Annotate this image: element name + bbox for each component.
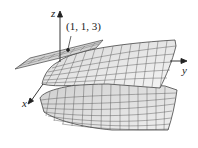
point-label: (1, 1, 3) <box>66 20 101 33</box>
z-axis-arrow-icon <box>58 11 63 17</box>
y-axis-arrow-icon <box>181 59 187 64</box>
tangent-point-marker <box>67 49 70 52</box>
lower-surface-sheet <box>40 82 177 130</box>
upper-surface-sheet <box>42 40 176 88</box>
figure: z y x (1, 1, 3) <box>0 0 198 148</box>
y-axis-label: y <box>181 64 187 76</box>
surface-diagram: z y x (1, 1, 3) <box>0 0 198 148</box>
point-pointer <box>68 36 71 49</box>
z-axis-label: z <box>50 7 56 19</box>
x-axis-label: x <box>21 97 27 109</box>
